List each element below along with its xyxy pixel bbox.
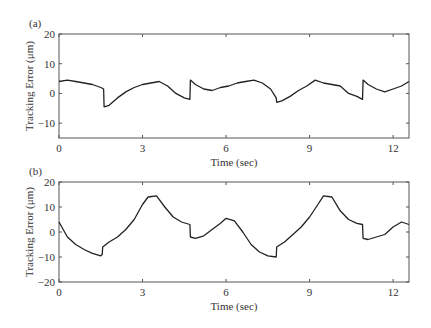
x-tick-label: 9 — [307, 142, 313, 154]
y-tick-label: 10 — [44, 58, 56, 70]
y-tick-label: 10 — [44, 201, 56, 213]
panel-a-y-axis-label: Tracking Error (μm) — [23, 41, 36, 131]
y-tick-label: 0 — [50, 226, 56, 238]
panel-b-y-axis-label: Tracking Error (μm) — [23, 187, 36, 277]
x-tick-label: 6 — [223, 286, 229, 298]
panel-a: (a) 20100−10 036912 Tracking Error (μm) … — [23, 17, 409, 169]
y-tick-label: −10 — [38, 251, 56, 263]
x-tick-label: 12 — [388, 142, 399, 154]
panel-b-x-ticks: 036912 — [56, 182, 398, 298]
x-tick-label: 6 — [223, 142, 229, 154]
panel-b-x-axis-label: Time (sec) — [211, 300, 258, 313]
panel-b-y-ticks: 20100−10−20 — [38, 176, 409, 288]
y-tick-label: 20 — [44, 28, 56, 40]
panel-b: (b) 20100−10−20 036912 Tracking Error (μ… — [23, 165, 409, 313]
x-tick-label: 0 — [56, 286, 62, 298]
x-tick-label: 9 — [307, 286, 313, 298]
x-tick-label: 3 — [140, 142, 146, 154]
y-tick-label: 20 — [44, 176, 56, 188]
figure: (a) 20100−10 036912 Tracking Error (μm) … — [0, 0, 431, 328]
x-tick-label: 3 — [140, 286, 146, 298]
panel-a-data-line — [59, 80, 409, 107]
panel-a-axes-frame — [59, 34, 409, 138]
panel-b-label: (b) — [29, 165, 42, 178]
panel-b-data-line — [59, 196, 409, 257]
y-tick-label: 0 — [50, 87, 56, 99]
y-tick-label: −10 — [38, 117, 56, 129]
panel-b-axes-frame — [59, 182, 409, 282]
x-tick-label: 12 — [388, 286, 399, 298]
y-tick-label: −20 — [38, 276, 56, 288]
panel-a-y-ticks: 20100−10 — [38, 28, 409, 129]
x-tick-label: 0 — [56, 142, 62, 154]
panel-a-label: (a) — [29, 17, 42, 30]
panel-a-x-axis-label: Time (sec) — [211, 156, 258, 169]
panel-a-x-ticks: 036912 — [56, 34, 398, 154]
